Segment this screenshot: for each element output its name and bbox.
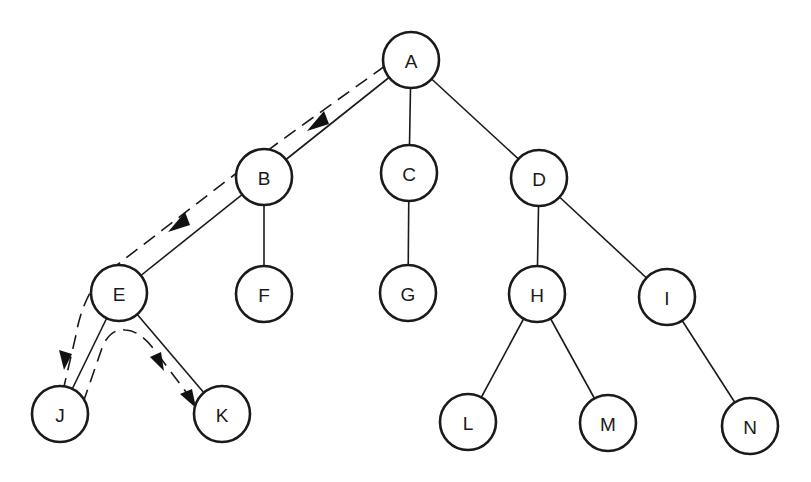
node-j: J <box>32 386 88 442</box>
node-b: B <box>236 149 292 205</box>
arrowhead-b-e <box>168 212 190 232</box>
node-c: C <box>381 145 437 201</box>
tree-edges <box>60 60 750 426</box>
node-g: G <box>380 265 436 321</box>
node-n: N <box>722 398 778 454</box>
node-label: K <box>216 405 229 426</box>
node-e: E <box>91 265 147 321</box>
node-label: E <box>113 284 126 305</box>
node-k: K <box>194 386 250 442</box>
node-a: A <box>383 32 439 88</box>
node-f: F <box>236 266 292 322</box>
traversal-arrow-j-to-k <box>83 330 195 404</box>
node-label: J <box>55 405 65 426</box>
traversal-path <box>58 66 385 408</box>
node-label: B <box>258 168 271 189</box>
arrowhead-e-k-2 <box>180 389 196 408</box>
tree-nodes: ABCDEFGHIJKLMN <box>32 32 778 454</box>
node-label: C <box>402 164 416 185</box>
node-label: L <box>463 413 474 434</box>
node-label: F <box>258 285 270 306</box>
node-h: H <box>509 266 565 322</box>
arrowhead-e-k-1 <box>150 352 164 371</box>
traversal-arrow-a-to-j <box>62 66 385 395</box>
node-label: D <box>532 169 546 190</box>
node-i: I <box>639 269 695 325</box>
node-d: D <box>511 150 567 206</box>
node-l: L <box>440 394 496 450</box>
tree-diagram: ABCDEFGHIJKLMN <box>0 0 811 482</box>
node-label: M <box>600 414 616 435</box>
node-label: G <box>401 284 416 305</box>
node-label: A <box>405 51 418 72</box>
node-label: H <box>530 285 544 306</box>
node-m: M <box>580 395 636 451</box>
node-label: I <box>664 288 669 309</box>
node-label: N <box>743 417 757 438</box>
